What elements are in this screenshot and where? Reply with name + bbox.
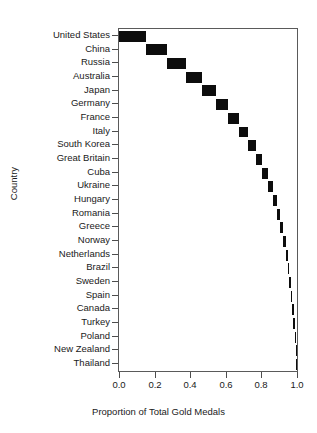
bar-segment bbox=[146, 44, 168, 55]
x-axis-tick bbox=[155, 372, 156, 378]
x-axis-tick-labels: 0.00.20.40.60.81.0 bbox=[118, 379, 298, 392]
bar-segment bbox=[216, 99, 228, 110]
bar-segment bbox=[296, 345, 297, 356]
x-axis-tick-label: 0.6 bbox=[213, 379, 239, 391]
y-axis-tick-label: South Korea bbox=[57, 139, 110, 149]
bar-segment bbox=[256, 154, 263, 165]
x-axis-tick-label: 1.0 bbox=[284, 379, 310, 391]
y-axis-tick-label: Poland bbox=[80, 331, 110, 341]
y-axis-tick-label: Netherlands bbox=[59, 249, 110, 259]
gold-medals-pareto-chart: Country United StatesChinaRussiaAustrali… bbox=[0, 0, 317, 433]
bar-segment bbox=[202, 85, 216, 96]
y-axis-tick-label: Hungary bbox=[74, 194, 110, 204]
bar-segment bbox=[262, 168, 268, 179]
y-axis-tick-label: Germany bbox=[71, 98, 110, 108]
y-axis-tick-label: Great Britain bbox=[57, 153, 110, 163]
bar-segment bbox=[292, 304, 294, 315]
y-axis-tick-label: Spain bbox=[86, 290, 110, 300]
bar-segment bbox=[248, 140, 256, 151]
x-axis-tick bbox=[261, 372, 262, 378]
y-axis-tick-label: France bbox=[80, 112, 110, 122]
plot-area bbox=[118, 28, 298, 372]
y-axis-tick-label: Norway bbox=[78, 235, 110, 245]
y-axis-tick-label: Thailand bbox=[74, 358, 110, 368]
bar-segment bbox=[291, 291, 293, 302]
y-axis-tick-label: Ukraine bbox=[77, 180, 110, 190]
bar-segment bbox=[228, 113, 239, 124]
bar-segment bbox=[277, 209, 280, 220]
y-axis-tick-label: New Zealand bbox=[54, 344, 110, 354]
bar-segment bbox=[273, 195, 277, 206]
x-axis-tick bbox=[297, 372, 298, 378]
y-axis-tick-label: Romania bbox=[72, 208, 110, 218]
y-axis-tick-label: Russia bbox=[81, 57, 110, 67]
bar-segment bbox=[280, 222, 283, 233]
y-axis-tick-labels: United StatesChinaRussiaAustraliaJapanGe… bbox=[0, 28, 110, 372]
x-axis-tick bbox=[226, 372, 227, 378]
y-axis-tick-label: Greece bbox=[79, 221, 110, 231]
y-axis-tick-label: Canada bbox=[77, 303, 110, 313]
bar-segment bbox=[289, 277, 291, 288]
y-axis-tick-label: Sweden bbox=[76, 276, 110, 286]
y-axis-tick-label: Cuba bbox=[87, 167, 110, 177]
x-axis-tick bbox=[190, 372, 191, 378]
x-axis-tick-label: 0.4 bbox=[177, 379, 203, 391]
x-axis-tick-label: 0.8 bbox=[248, 379, 274, 391]
x-axis-title: Proportion of Total Gold Medals bbox=[0, 406, 317, 417]
bar-segment bbox=[268, 181, 273, 192]
bar-segment bbox=[286, 250, 288, 261]
bar-segment bbox=[186, 72, 202, 83]
y-axis-tick-label: China bbox=[85, 44, 110, 54]
bar-segment bbox=[119, 31, 146, 42]
y-axis-tick-label: Japan bbox=[84, 85, 110, 95]
bar-segment bbox=[293, 318, 295, 329]
y-axis-tick-label: Australia bbox=[73, 71, 110, 81]
x-axis-tick-label: 0.2 bbox=[142, 379, 168, 391]
y-axis-tick-label: Italy bbox=[93, 126, 110, 136]
y-axis-tick-label: United States bbox=[53, 30, 110, 40]
y-axis-tick-label: Brazil bbox=[86, 262, 110, 272]
x-axis-ticks bbox=[118, 372, 298, 378]
plot-inner bbox=[119, 29, 297, 371]
x-axis-tick bbox=[119, 372, 120, 378]
bar-segment bbox=[288, 263, 290, 274]
bar-segment bbox=[283, 236, 285, 247]
y-axis-tick-label: Turkey bbox=[81, 317, 110, 327]
bar-segment bbox=[167, 58, 186, 69]
x-axis-tick-label: 0.0 bbox=[106, 379, 132, 391]
bar-segment bbox=[296, 359, 297, 370]
bar-segment bbox=[239, 127, 248, 138]
bar-segment bbox=[295, 332, 297, 343]
